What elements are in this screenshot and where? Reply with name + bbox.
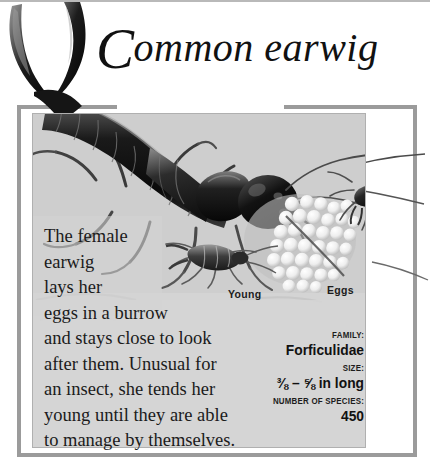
earwig-forceps xyxy=(9,2,85,106)
title-remainder: ommon earwig xyxy=(134,25,379,70)
frame-top-right-segment xyxy=(284,105,417,109)
title-drop-cap: C xyxy=(96,17,135,80)
frame-right-edge xyxy=(413,105,417,457)
fact-value-family: Forficulidae xyxy=(217,341,364,359)
label-eggs: Eggs xyxy=(327,284,354,296)
top-divider-rule xyxy=(0,0,430,2)
fact-value-size: ⅜ – ⅝ in long xyxy=(217,374,364,392)
frame-top-left-segment xyxy=(17,105,117,109)
fact-key-family: FAMILY: xyxy=(223,329,364,341)
description-line: to manage by themselves. xyxy=(44,428,274,454)
earwig-fact-card: Common earwig xyxy=(0,0,430,472)
label-young: Young xyxy=(228,288,261,300)
fact-list: FAMILY: Forficulidae SIZE: ⅜ – ⅝ in long… xyxy=(204,326,364,425)
page-title: Common earwig xyxy=(96,24,378,73)
frame-left-edge xyxy=(17,105,21,457)
description-line: eggs in a burrow xyxy=(44,301,274,327)
frame-bottom-edge xyxy=(17,453,417,457)
fact-value-number-of-species: 450 xyxy=(217,407,364,425)
description-line: earwig xyxy=(44,250,274,276)
fact-key-number-of-species: NUMBER OF SPECIES: xyxy=(223,395,364,407)
description-line: The female xyxy=(44,224,274,250)
fact-key-size: SIZE: xyxy=(223,362,364,374)
